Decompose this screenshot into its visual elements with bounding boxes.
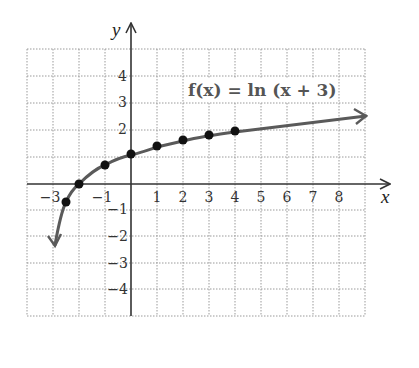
svg-text:4: 4	[118, 68, 127, 84]
y-tick-labels: 4 3 2 −1 −2 −3 −4	[107, 68, 128, 297]
point	[179, 136, 188, 145]
svg-text:1: 1	[153, 189, 162, 205]
point	[127, 150, 136, 159]
svg-text:−2: −2	[107, 228, 128, 244]
svg-text:−4: −4	[107, 281, 128, 297]
svg-text:3: 3	[118, 94, 127, 110]
point	[153, 142, 162, 151]
log-function-graph: y x −3 −1 1 2 3 4 5 6 7 8 4 3 2 −1 −2 −3…	[0, 0, 419, 368]
x-tick-labels: −3 −1 1 2 3 4 5 6 7 8	[40, 189, 344, 205]
svg-text:8: 8	[335, 189, 344, 205]
x-axis-label: x	[380, 186, 390, 207]
y-axis-label: y	[110, 19, 121, 40]
point	[101, 161, 110, 170]
svg-text:3: 3	[205, 189, 214, 205]
function-label: f(x) = ln (x + 3)	[188, 80, 336, 100]
point	[75, 180, 84, 189]
svg-text:4: 4	[231, 189, 240, 205]
svg-text:2: 2	[118, 121, 127, 137]
point	[62, 198, 71, 207]
svg-text:5: 5	[257, 189, 266, 205]
point	[231, 127, 240, 136]
point	[205, 131, 214, 140]
svg-text:−1: −1	[107, 201, 128, 217]
svg-text:−3: −3	[40, 189, 61, 205]
svg-text:7: 7	[309, 189, 318, 205]
svg-text:−3: −3	[107, 255, 128, 271]
svg-text:6: 6	[283, 189, 292, 205]
svg-text:2: 2	[179, 189, 188, 205]
